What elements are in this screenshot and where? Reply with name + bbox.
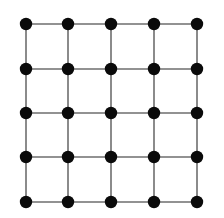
node-r2-c1 bbox=[62, 107, 74, 119]
node-r3-c0 bbox=[20, 151, 32, 163]
node-r0-c2 bbox=[105, 18, 117, 30]
node-r4-c4 bbox=[191, 196, 203, 208]
node-r1-c0 bbox=[20, 63, 32, 75]
node-r1-c1 bbox=[62, 63, 74, 75]
node-r1-c2 bbox=[105, 63, 117, 75]
grid-graph-diagram bbox=[0, 0, 224, 218]
node-r2-c2 bbox=[105, 107, 117, 119]
node-r1-c4 bbox=[191, 63, 203, 75]
node-r4-c0 bbox=[20, 196, 32, 208]
node-r0-c1 bbox=[62, 18, 74, 30]
node-r3-c4 bbox=[191, 151, 203, 163]
node-r2-c0 bbox=[20, 107, 32, 119]
node-r2-c4 bbox=[191, 107, 203, 119]
node-r3-c1 bbox=[62, 151, 74, 163]
node-r4-c1 bbox=[62, 196, 74, 208]
node-r4-c3 bbox=[148, 196, 160, 208]
node-r4-c2 bbox=[105, 196, 117, 208]
node-r2-c3 bbox=[148, 107, 160, 119]
node-r3-c2 bbox=[105, 151, 117, 163]
node-r0-c4 bbox=[191, 18, 203, 30]
node-r3-c3 bbox=[148, 151, 160, 163]
node-r0-c0 bbox=[20, 18, 32, 30]
node-r1-c3 bbox=[148, 63, 160, 75]
node-r0-c3 bbox=[148, 18, 160, 30]
